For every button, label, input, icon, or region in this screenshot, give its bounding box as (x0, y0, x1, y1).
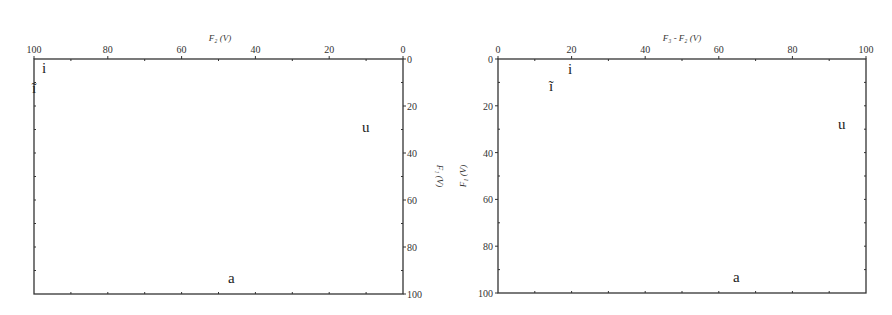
right-y-tick-label: 80 (483, 241, 493, 252)
left-x-axis-title: F₂ (V) (208, 33, 231, 43)
left-x-ticks (34, 56, 406, 294)
right-x-tick-label: 60 (714, 44, 724, 55)
left-y-tick-label: 40 (407, 148, 417, 159)
left-x-tick-label: 20 (324, 44, 334, 55)
left-y-axis-title: F₁ (V) (435, 164, 445, 187)
right-plot: 0 20 40 60 80 100 F₃ - F₂ (V) 0 20 40 60… (458, 33, 874, 299)
right-x-tick-label: 20 (567, 44, 577, 55)
right-plot-frame (498, 59, 866, 293)
vowel-u: u (362, 119, 370, 135)
left-y-tick-label: 80 (407, 242, 417, 253)
left-x-tick-label: 80 (103, 44, 113, 55)
left-x-tick-label: 0 (401, 44, 406, 55)
vowel-u: u (838, 116, 846, 132)
right-y-tick-label: 60 (483, 194, 493, 205)
left-x-tick-label: 100 (27, 44, 42, 55)
vowel-i: i (568, 61, 572, 77)
left-plot-frame (34, 59, 403, 294)
right-x-axis-title: F₃ - F₂ (V) (662, 33, 702, 43)
vowel-i-nasal: ĩ (31, 80, 37, 96)
right-x-tick-label: 0 (496, 44, 501, 55)
left-y-tick-label: 60 (407, 195, 417, 206)
right-x-tick-label: 100 (859, 44, 874, 55)
vowel-i-nasal: ĩ (548, 78, 554, 94)
vowel-a: a (228, 270, 235, 286)
left-x-tick-label: 60 (177, 44, 187, 55)
left-y-tick-label: 20 (407, 101, 417, 112)
right-y-tick-label: 0 (488, 54, 493, 65)
right-y-tick-label: 20 (483, 101, 493, 112)
vowel-a: a (733, 269, 740, 285)
left-y-tick-label: 100 (407, 289, 422, 300)
left-plot: 100 80 60 40 20 0 F₂ (V) 0 20 40 60 80 1… (27, 33, 446, 300)
vowel-i: i (42, 60, 46, 76)
left-x-tick-label: 40 (250, 44, 260, 55)
right-x-tick-label: 40 (640, 44, 650, 55)
figure: 100 80 60 40 20 0 F₂ (V) 0 20 40 60 80 1… (0, 0, 892, 315)
right-x-tick-label: 80 (787, 44, 797, 55)
right-y-tick-label: 100 (478, 288, 493, 299)
right-y-tick-label: 40 (483, 148, 493, 159)
left-y-tick-label: 0 (407, 54, 412, 65)
right-y-axis-title: F₁ (V) (458, 165, 468, 188)
